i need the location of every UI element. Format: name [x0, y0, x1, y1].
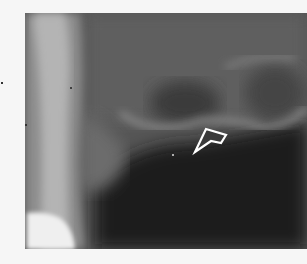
- radiograph-content: [25, 13, 307, 249]
- margin-mark: [25, 124, 27, 126]
- radiograph: [25, 13, 307, 249]
- margin-mark: [1, 82, 3, 84]
